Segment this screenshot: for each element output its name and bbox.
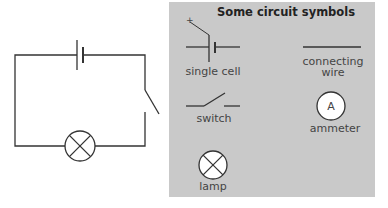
circuit-switch-blade — [145, 90, 159, 114]
circuit-wire — [84, 55, 145, 90]
panel-title: Some circuit symbols — [217, 5, 355, 19]
single-cell-label: single cell — [186, 65, 241, 78]
connecting-wire-label-2: wire — [321, 66, 344, 79]
switch-label: switch — [196, 112, 231, 125]
ammeter-label: ammeter — [310, 122, 361, 135]
series-circuit — [15, 40, 159, 161]
circuit-wire — [15, 55, 77, 146]
circuit-wire — [95, 112, 145, 146]
circuit-diagram: Some circuit symbols + single cell conne… — [0, 0, 388, 208]
lamp-label: lamp — [199, 180, 227, 193]
single-cell-plus: + — [186, 15, 194, 25]
lamp-symbol — [199, 151, 227, 179]
ammeter-glyph: A — [327, 100, 335, 113]
